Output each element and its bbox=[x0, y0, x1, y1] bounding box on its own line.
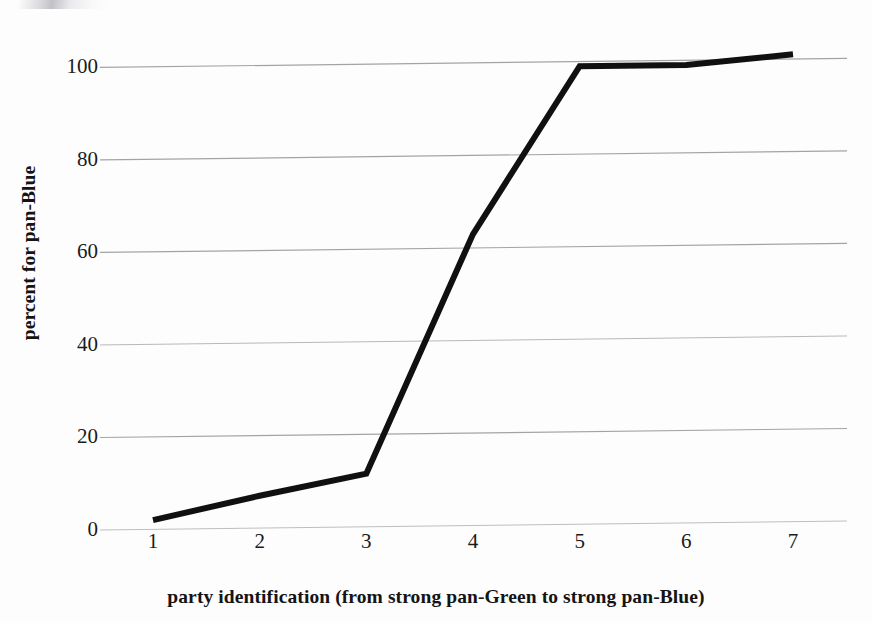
y-axis-ticks: 020406080100 bbox=[0, 35, 98, 530]
x-tick-label: 4 bbox=[448, 531, 498, 552]
y-tick-label: 80 bbox=[28, 149, 98, 170]
y-tick-label: 100 bbox=[28, 56, 98, 77]
plot-area bbox=[105, 35, 841, 530]
scan-artifact bbox=[18, 0, 108, 9]
data-line bbox=[105, 35, 841, 530]
chart-figure: percent for pan-Blue 020406080100 123456… bbox=[0, 0, 872, 623]
y-tick-label: 0 bbox=[28, 519, 98, 540]
x-tick-label: 3 bbox=[341, 531, 391, 552]
x-axis-ticks: 1234567 bbox=[105, 531, 841, 561]
x-tick-label: 7 bbox=[768, 531, 818, 552]
series-line bbox=[153, 54, 793, 520]
y-tick-label: 40 bbox=[28, 334, 98, 355]
x-tick-label: 6 bbox=[661, 531, 711, 552]
x-axis-title: party identification (from strong pan-Gr… bbox=[0, 586, 872, 608]
x-tick-label: 5 bbox=[555, 531, 605, 552]
x-tick-label: 2 bbox=[235, 531, 285, 552]
y-tick-label: 20 bbox=[28, 426, 98, 447]
x-tick-label: 1 bbox=[128, 531, 178, 552]
y-tick-label: 60 bbox=[28, 241, 98, 262]
